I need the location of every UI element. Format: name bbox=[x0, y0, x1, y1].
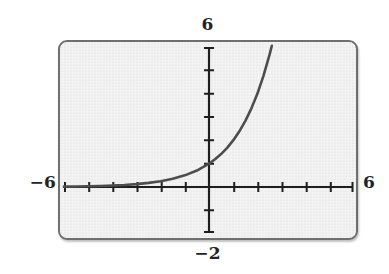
calculator-screen-frame bbox=[58, 40, 358, 240]
y-axis-max-label: 6 bbox=[13, 14, 389, 34]
x-axis-max-label: 6 bbox=[363, 172, 387, 192]
graph-screenshot: 6 −6 6 −2 bbox=[0, 0, 389, 274]
plot-area bbox=[60, 42, 356, 238]
y-axis-group bbox=[204, 47, 214, 233]
y-axis-min-label: −2 bbox=[13, 243, 389, 263]
exponential-curve bbox=[64, 46, 272, 187]
x-axis-min-label: −6 bbox=[12, 172, 56, 192]
